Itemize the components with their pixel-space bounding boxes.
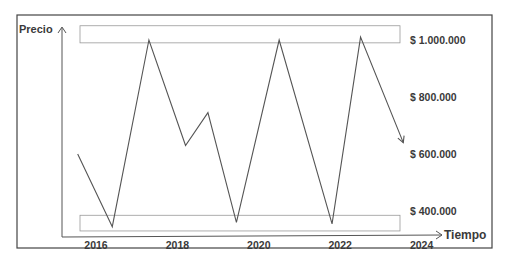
series-line [78, 37, 404, 227]
y-tick-label: $ 600.000 [410, 148, 457, 160]
y-axis-label: Precio [19, 23, 53, 35]
y-tick-label: $ 1.000.000 [410, 34, 466, 46]
y-tick-label: $ 800.000 [410, 91, 457, 103]
x-tick-label: 2024 [410, 239, 434, 251]
x-tick-label: 2016 [84, 239, 108, 251]
y-tick-label: $ 400.000 [410, 205, 457, 217]
x-tick-label: 2018 [166, 239, 190, 251]
x-axis-line [62, 235, 442, 237]
chart-canvas: Precio Tiempo $ 1.000.000$ 800.000$ 600.… [0, 0, 509, 270]
support-band [80, 215, 400, 231]
x-tick-label: 2020 [247, 239, 271, 251]
x-tick-label: 2022 [329, 239, 353, 251]
x-axis-label: Tiempo [444, 228, 486, 242]
resistance-band [80, 26, 400, 43]
